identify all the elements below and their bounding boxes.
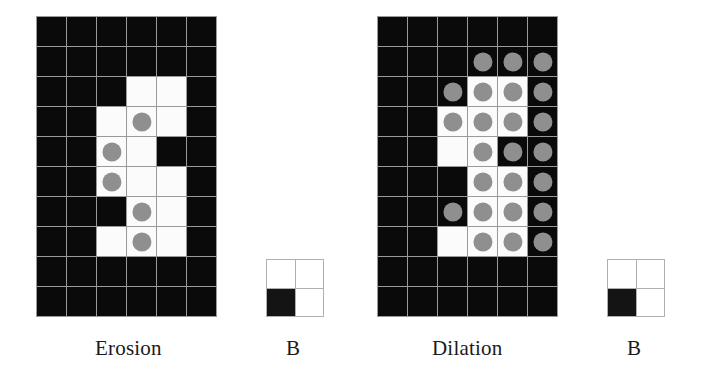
grid-cell	[528, 227, 557, 256]
grid-cell	[528, 197, 557, 226]
grid-cell	[187, 287, 216, 316]
gray-dot-marker	[473, 112, 492, 131]
grid-cell	[408, 227, 437, 256]
grid-cell	[438, 107, 467, 136]
grid-cell	[378, 77, 407, 106]
morphology-figure: Erosion B Dilation B	[0, 0, 706, 389]
gray-dot-marker	[473, 232, 492, 251]
grid-cell	[378, 287, 407, 316]
grid-cell	[157, 137, 186, 166]
gray-dot-marker	[443, 202, 462, 221]
grid-cell	[528, 77, 557, 106]
grid-cell	[378, 47, 407, 76]
gray-dot-marker	[533, 82, 552, 101]
grid-cell	[378, 197, 407, 226]
erosion-caption: Erosion	[95, 336, 162, 361]
grid-cell	[498, 227, 527, 256]
grid-cell	[67, 287, 96, 316]
grid-cell	[498, 287, 527, 316]
grid-cell	[498, 257, 527, 286]
grid-cell	[468, 257, 497, 286]
grid-cell	[127, 257, 156, 286]
grid-cell	[378, 107, 407, 136]
grid-cell	[468, 197, 497, 226]
grid-cell	[498, 107, 527, 136]
grid-cell	[157, 47, 186, 76]
grid-cell	[157, 227, 186, 256]
grid-cell	[97, 257, 126, 286]
gray-dot-marker	[473, 202, 492, 221]
grid-cell	[498, 167, 527, 196]
grid-cell	[408, 197, 437, 226]
grid-cell	[127, 17, 156, 46]
structuring-element-b-right	[607, 259, 665, 317]
structuring-element-cell	[296, 289, 324, 317]
grid-cell	[438, 167, 467, 196]
grid-cell	[468, 137, 497, 166]
grid-cell	[187, 47, 216, 76]
grid-cell	[67, 167, 96, 196]
grid-cell	[37, 107, 66, 136]
gray-dot-marker	[132, 112, 151, 131]
grid-cell	[528, 167, 557, 196]
dilation-grid	[377, 16, 558, 317]
grid-cell	[187, 77, 216, 106]
grid-cell	[67, 197, 96, 226]
grid-cell	[157, 257, 186, 286]
grid-cell	[438, 77, 467, 106]
gray-dot-marker	[102, 142, 121, 161]
grid-cell	[127, 107, 156, 136]
grid-cell	[67, 257, 96, 286]
grid-cell	[498, 77, 527, 106]
grid-cell	[498, 47, 527, 76]
grid-cell	[127, 287, 156, 316]
structuring-element-cell	[608, 289, 636, 317]
grid-cell	[408, 17, 437, 46]
grid-cell	[438, 47, 467, 76]
grid-cell	[438, 227, 467, 256]
b-right-caption: B	[627, 336, 641, 361]
grid-cell	[157, 167, 186, 196]
grid-cell	[37, 47, 66, 76]
grid-cell	[187, 227, 216, 256]
grid-cell	[67, 47, 96, 76]
structuring-element-cell	[267, 260, 295, 288]
grid-cell	[37, 137, 66, 166]
gray-dot-marker	[533, 142, 552, 161]
grid-cell	[37, 17, 66, 46]
b-left-caption: B	[286, 336, 300, 361]
grid-cell	[187, 17, 216, 46]
gray-dot-marker	[503, 142, 522, 161]
grid-cell	[37, 77, 66, 106]
gray-dot-marker	[473, 172, 492, 191]
gray-dot-marker	[503, 52, 522, 71]
gray-dot-marker	[132, 202, 151, 221]
grid-cell	[97, 17, 126, 46]
grid-cell	[97, 107, 126, 136]
structuring-element-cell	[637, 289, 665, 317]
grid-cell	[127, 47, 156, 76]
grid-cell	[127, 137, 156, 166]
grid-cell	[97, 167, 126, 196]
gray-dot-marker	[503, 112, 522, 131]
grid-cell	[157, 197, 186, 226]
grid-cell	[67, 17, 96, 46]
grid-cell	[378, 257, 407, 286]
grid-cell	[438, 137, 467, 166]
grid-cell	[408, 77, 437, 106]
grid-cell	[157, 107, 186, 136]
grid-cell	[528, 287, 557, 316]
grid-cell	[97, 77, 126, 106]
grid-cell	[378, 167, 407, 196]
gray-dot-marker	[102, 172, 121, 191]
grid-cell	[67, 227, 96, 256]
gray-dot-marker	[533, 52, 552, 71]
grid-cell	[97, 197, 126, 226]
grid-cell	[37, 227, 66, 256]
grid-cell	[37, 287, 66, 316]
grid-cell	[97, 287, 126, 316]
grid-cell	[528, 47, 557, 76]
grid-cell	[187, 257, 216, 286]
structuring-element-b-left	[266, 259, 324, 317]
gray-dot-marker	[503, 82, 522, 101]
